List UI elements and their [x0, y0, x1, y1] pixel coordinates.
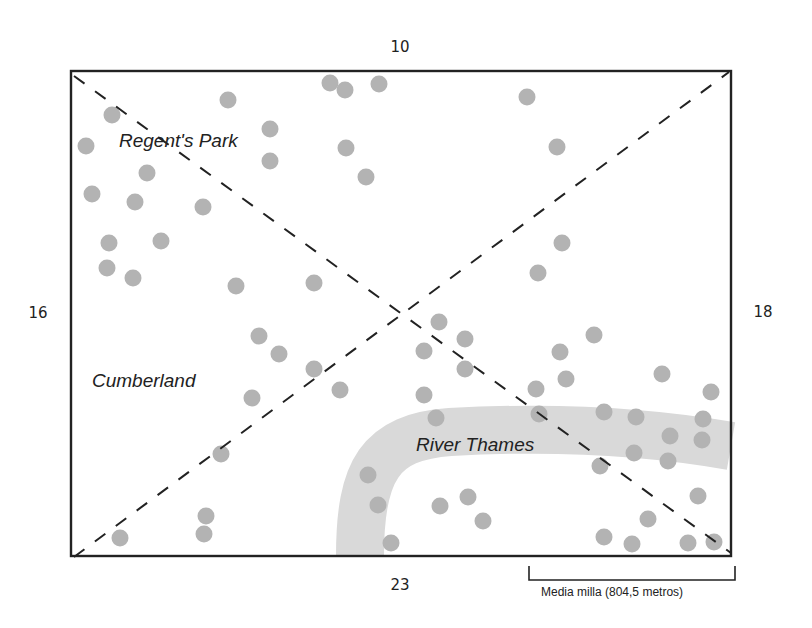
- data-dot: [703, 384, 720, 401]
- data-dot: [84, 186, 101, 203]
- data-dot: [101, 235, 118, 252]
- data-dot: [383, 535, 400, 552]
- data-dot: [332, 382, 349, 399]
- data-dot: [628, 409, 645, 426]
- data-dot: [125, 270, 142, 287]
- data-dot: [322, 75, 339, 92]
- data-dot: [251, 328, 268, 345]
- data-dot: [475, 513, 492, 530]
- data-dot: [592, 458, 609, 475]
- data-dot: [552, 344, 569, 361]
- data-dot: [370, 497, 387, 514]
- data-dot: [690, 488, 707, 505]
- data-dot: [306, 361, 323, 378]
- data-dot: [530, 265, 547, 282]
- data-dot: [660, 453, 677, 470]
- data-dot: [220, 92, 237, 109]
- data-dot: [371, 76, 388, 93]
- data-dot: [271, 346, 288, 363]
- count-left: 16: [28, 304, 47, 322]
- data-dot: [244, 390, 261, 407]
- data-dot: [528, 381, 545, 398]
- count-right: 18: [753, 303, 772, 321]
- data-dot: [153, 233, 170, 250]
- data-dot: [626, 445, 643, 462]
- data-dot: [306, 275, 323, 292]
- scale-bar-caption: Media milla (804,5 metros): [541, 585, 683, 599]
- data-dot: [262, 121, 279, 138]
- data-dot: [198, 508, 215, 525]
- data-dot: [586, 327, 603, 344]
- count-top: 10: [390, 38, 409, 56]
- data-dot: [549, 139, 566, 156]
- region-label-regents-park: Regent's Park: [119, 130, 238, 152]
- data-dot: [360, 467, 377, 484]
- data-dot: [596, 529, 613, 546]
- data-dot: [127, 194, 144, 211]
- data-dot: [558, 371, 575, 388]
- data-dot: [262, 153, 279, 170]
- data-dot: [428, 410, 445, 427]
- data-dot: [337, 82, 354, 99]
- data-dot: [654, 366, 671, 383]
- data-dot: [99, 260, 116, 277]
- region-label-cumberland: Cumberland: [92, 370, 196, 392]
- data-dot: [640, 511, 657, 528]
- data-dot: [596, 404, 613, 421]
- data-dot: [457, 361, 474, 378]
- count-bottom: 23: [390, 576, 409, 594]
- region-label-river-thames: River Thames: [416, 434, 534, 456]
- map-diagram: [0, 0, 812, 628]
- data-dot: [431, 314, 448, 331]
- scale-bar: [529, 566, 735, 580]
- data-dot: [78, 138, 95, 155]
- data-dot: [195, 199, 212, 216]
- data-dot: [460, 489, 477, 506]
- data-dot: [554, 235, 571, 252]
- data-dot: [338, 140, 355, 157]
- data-dot: [680, 535, 697, 552]
- data-dot: [694, 432, 711, 449]
- data-dot: [416, 343, 433, 360]
- data-dot: [624, 536, 641, 553]
- data-dot: [457, 331, 474, 348]
- data-dot: [416, 387, 433, 404]
- data-dot: [196, 526, 213, 543]
- data-dot: [695, 411, 712, 428]
- data-dot: [139, 165, 156, 182]
- data-dot: [432, 498, 449, 515]
- data-dot: [228, 278, 245, 295]
- data-dot: [519, 89, 536, 106]
- data-dot: [662, 428, 679, 445]
- data-dot: [358, 169, 375, 186]
- data-dot: [112, 530, 129, 547]
